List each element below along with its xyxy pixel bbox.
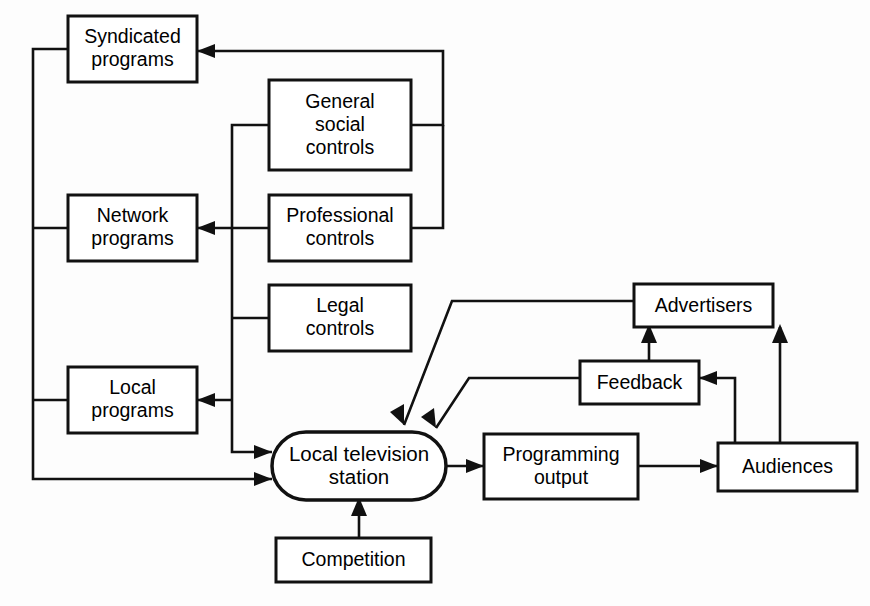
- node-layer: Syndicated programs General social contr…: [68, 16, 857, 582]
- node-label-audiences: Audiences: [742, 455, 833, 477]
- node-general-social-controls[interactable]: General social controls: [269, 80, 411, 170]
- node-label-general-social-controls-line3: controls: [306, 136, 375, 158]
- node-label-professional-controls-line2: controls: [306, 227, 375, 249]
- node-competition[interactable]: Competition: [276, 538, 431, 582]
- edge-professional-right-riser: [411, 125, 443, 228]
- node-label-syndicated-programs-line1: Syndicated: [84, 25, 180, 47]
- node-label-advertisers: Advertisers: [655, 294, 753, 316]
- arrowhead-controls-station: [254, 445, 272, 459]
- node-label-competition: Competition: [301, 548, 405, 570]
- node-label-professional-controls-line1: Professional: [286, 204, 393, 226]
- node-legal-controls[interactable]: Legal controls: [269, 285, 411, 351]
- node-label-local-television-station-line1: Local television: [289, 442, 429, 465]
- arrowhead-professional-network: [197, 221, 215, 235]
- node-advertisers[interactable]: Advertisers: [634, 284, 773, 327]
- arrowhead-controls-local-programs: [197, 393, 215, 407]
- flow-diagram: Syndicated programs General social contr…: [0, 0, 870, 606]
- node-label-local-programs-line2: programs: [91, 399, 174, 421]
- node-label-legal-controls-line2: controls: [306, 317, 375, 339]
- node-label-general-social-controls-line1: General: [305, 90, 374, 112]
- node-label-network-programs-line2: programs: [91, 227, 174, 249]
- node-professional-controls[interactable]: Professional controls: [269, 195, 411, 261]
- node-local-television-station[interactable]: Local television station: [272, 432, 446, 500]
- node-label-general-social-controls-line2: social: [315, 113, 365, 135]
- node-feedback[interactable]: Feedback: [580, 361, 699, 404]
- edge-feedback-to-station: [421, 378, 580, 428]
- node-audiences[interactable]: Audiences: [718, 443, 857, 491]
- arrowhead-programs-bus-station: [254, 472, 272, 486]
- node-label-syndicated-programs-line2: programs: [91, 48, 174, 70]
- diagram-canvas: Syndicated programs General social contr…: [0, 0, 870, 606]
- node-label-programming-output-line1: Programming: [502, 443, 619, 465]
- edge-audiences-to-advertisers: [772, 324, 788, 443]
- edge-programming-output-to-audiences: [638, 459, 718, 473]
- node-label-local-television-station-line2: station: [329, 465, 389, 488]
- node-label-network-programs-line1: Network: [97, 204, 169, 226]
- arrowhead-advertisers-station: [390, 404, 404, 425]
- edge-station-to-programming-output: [446, 459, 484, 473]
- edge-competition-to-station: [351, 497, 367, 538]
- edge-audiences-to-feedback: [699, 371, 735, 443]
- node-syndicated-programs[interactable]: Syndicated programs: [68, 16, 197, 82]
- node-label-local-programs-line1: Local: [109, 376, 156, 398]
- node-label-programming-output-line2: output: [534, 466, 589, 488]
- node-network-programs[interactable]: Network programs: [68, 195, 197, 261]
- node-label-legal-controls-line1: Legal: [316, 294, 364, 316]
- arrowhead-general-social-syndicated: [197, 44, 215, 58]
- arrowhead-programming-output-audiences: [700, 459, 718, 473]
- node-programming-output[interactable]: Programming output: [484, 434, 638, 499]
- arrowhead-feedback-station: [421, 408, 436, 428]
- arrowhead-station-programming-output: [466, 459, 484, 473]
- edge-controls-bus: [197, 125, 272, 459]
- edge-feedback-to-advertisers: [641, 324, 657, 361]
- arrowhead-audiences-feedback: [699, 371, 717, 385]
- node-local-programs[interactable]: Local programs: [68, 367, 197, 433]
- node-label-feedback: Feedback: [597, 371, 683, 393]
